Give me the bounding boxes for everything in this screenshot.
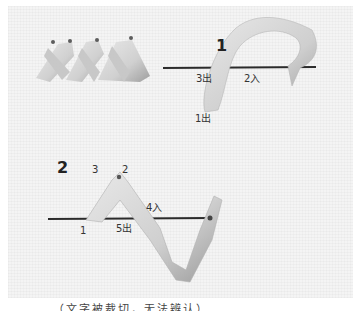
step-number-2: 2	[57, 160, 68, 176]
finished-stitches	[36, 36, 150, 82]
label-4-in: 4入	[146, 203, 162, 213]
label-1: 1	[80, 226, 86, 236]
label-1-out: 1出	[195, 114, 211, 124]
label-3-out: 3出	[196, 74, 212, 84]
step-number-1: 1	[216, 38, 227, 54]
label-5-out: 5出	[116, 224, 132, 234]
needle-2	[48, 218, 212, 219]
label-2-in: 2入	[244, 74, 260, 84]
label-2: 2	[122, 165, 128, 175]
label-3: 3	[92, 165, 98, 175]
ribbon-stitch-illustration	[0, 0, 361, 311]
figure-caption: …（文字被裁切，无法辨认）…	[40, 303, 340, 311]
